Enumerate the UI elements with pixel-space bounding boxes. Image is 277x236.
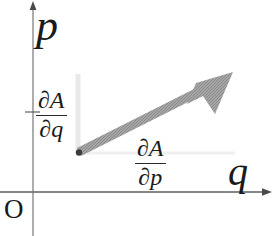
partial-a-partial-p-label: ∂A ∂p bbox=[135, 136, 166, 190]
x-axis-label: q bbox=[228, 152, 248, 192]
partial-a-partial-q-numerator: ∂A bbox=[36, 88, 67, 113]
partial-a-partial-p-numerator: ∂A bbox=[135, 136, 166, 161]
phase-plane-diagram: p q O ∂A ∂q ∂A ∂p bbox=[0, 0, 277, 236]
gradient-arrowhead-icon bbox=[187, 72, 233, 114]
origin-label: O bbox=[4, 196, 24, 223]
gradient-arrow-tail-dot bbox=[76, 149, 82, 155]
x-axis-arrowhead-icon bbox=[262, 188, 272, 196]
partial-a-partial-p-denominator: ∂p bbox=[135, 165, 166, 190]
partial-a-partial-q-label: ∂A ∂q bbox=[36, 88, 67, 142]
y-axis-label: p bbox=[36, 4, 58, 48]
partial-a-partial-q-denominator: ∂q bbox=[36, 117, 67, 142]
